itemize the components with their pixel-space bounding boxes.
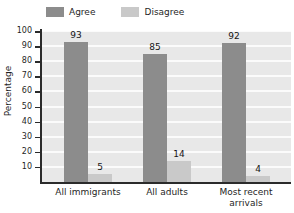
y-axis-tick-label: 100 xyxy=(10,27,32,35)
bar-chart: Agree Disagree Percentage 10090807060504… xyxy=(0,0,294,213)
x-axis-category-label-line: All adults xyxy=(127,187,207,198)
bar-disagree-0 xyxy=(88,174,112,182)
y-axis-tick xyxy=(35,122,40,124)
chart-legend: Agree Disagree xyxy=(46,5,184,19)
bar-disagree-2 xyxy=(246,176,270,182)
y-axis-tick-label: 20 xyxy=(10,148,32,156)
bar-value-label: 4 xyxy=(246,165,270,174)
x-axis-line xyxy=(40,182,291,184)
y-axis-tick-label: 40 xyxy=(10,118,32,126)
x-axis-category-label-line: All immigrants xyxy=(48,187,128,198)
y-axis-tick-label: 30 xyxy=(10,133,32,141)
y-axis-tick xyxy=(35,167,40,169)
bar-agree-0 xyxy=(64,42,88,182)
y-axis-tick xyxy=(35,61,40,63)
legend-swatch-agree xyxy=(46,7,64,17)
bar-value-label: 5 xyxy=(88,163,112,172)
y-axis-tick xyxy=(35,31,40,33)
bar-value-label: 93 xyxy=(64,31,88,40)
legend-item-disagree: Disagree xyxy=(121,7,184,17)
bar-agree-1 xyxy=(143,54,167,182)
bar-value-label: 92 xyxy=(222,32,246,41)
y-axis-tick-label: 10 xyxy=(10,163,32,171)
y-axis-tick-label: 70 xyxy=(10,72,32,80)
x-axis-category-label-line: arrivals xyxy=(206,198,286,209)
y-axis-tick-label: 60 xyxy=(10,87,32,95)
y-axis-tick xyxy=(35,152,40,154)
bar-agree-2 xyxy=(222,43,246,182)
x-axis-category-label-line: Most recent xyxy=(206,187,286,198)
legend-swatch-disagree xyxy=(121,7,139,17)
y-axis-tick-label: 80 xyxy=(10,57,32,65)
y-axis-tick xyxy=(35,107,40,109)
x-axis-category-label: Most recentarrivals xyxy=(206,187,286,209)
bar-disagree-1 xyxy=(167,161,191,182)
bar-value-label: 14 xyxy=(167,150,191,159)
bar-value-label: 85 xyxy=(143,43,167,52)
legend-label-agree: Agree xyxy=(69,7,95,17)
y-axis-tick xyxy=(35,137,40,139)
y-axis-tick-label: 90 xyxy=(10,42,32,50)
y-axis-tick xyxy=(35,46,40,48)
y-axis-tick-label: 50 xyxy=(10,103,32,111)
x-axis-category-label: All adults xyxy=(127,187,207,198)
y-axis-tick xyxy=(35,91,40,93)
legend-label-disagree: Disagree xyxy=(144,7,184,17)
x-axis-category-label: All immigrants xyxy=(48,187,128,198)
y-axis-tick xyxy=(35,76,40,78)
legend-item-agree: Agree xyxy=(46,7,95,17)
y-axis-line xyxy=(40,29,42,183)
